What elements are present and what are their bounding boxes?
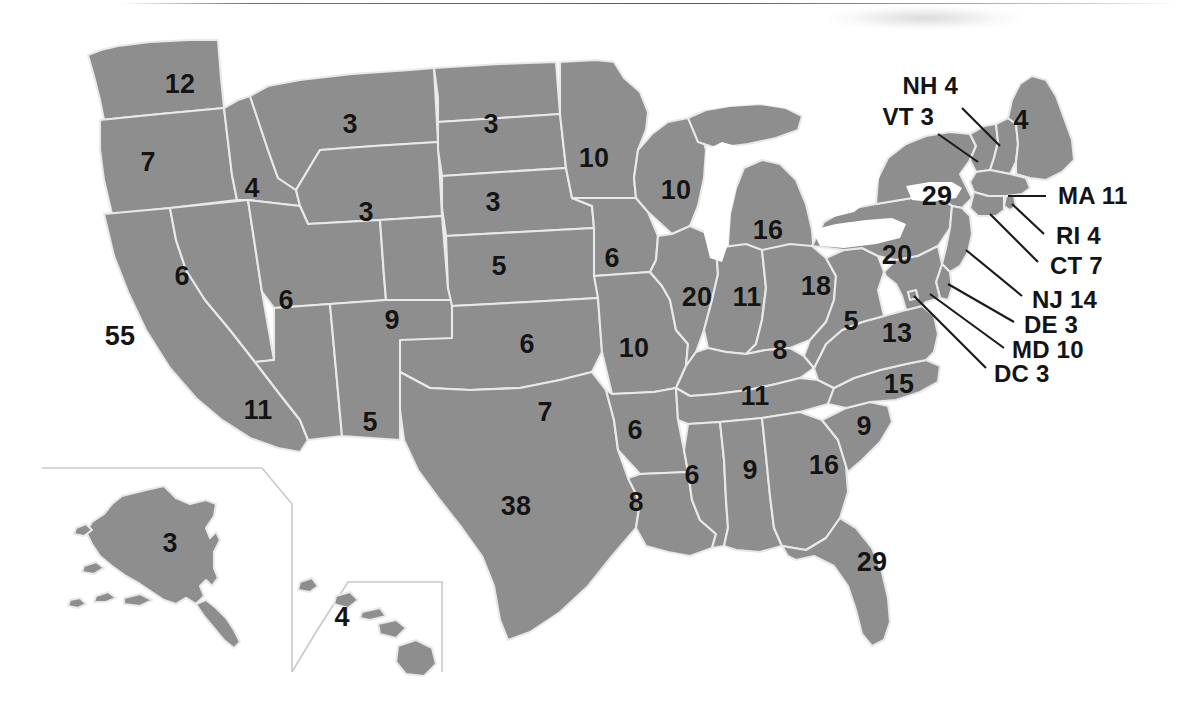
ev-label-sc: 9 (856, 413, 871, 440)
ev-label-fl: 29 (857, 549, 887, 576)
callout-label-nj: NJ 14 (1032, 288, 1097, 312)
state-shape-ak-aleutians-3 (124, 594, 152, 606)
ev-label-hi: 4 (334, 604, 349, 631)
callout-label-md: MD 10 (1012, 338, 1084, 362)
ev-label-ca: 55 (105, 323, 135, 350)
state-shape-wa (88, 40, 224, 120)
ev-label-co: 9 (384, 307, 399, 334)
callout-label-ct: CT 7 (1050, 254, 1103, 278)
ev-label-nv: 6 (174, 263, 189, 290)
state-shape-ak-island-2 (82, 562, 104, 574)
ev-label-pa: 20 (882, 242, 912, 269)
callout-label-de: DE 3 (1024, 313, 1078, 337)
state-shape-co (380, 216, 452, 300)
ev-label-or: 7 (140, 149, 155, 176)
ev-label-wa: 12 (165, 71, 195, 98)
state-shape-ks (446, 228, 598, 306)
ev-label-va: 13 (882, 320, 912, 347)
ev-label-nd: 3 (483, 111, 498, 138)
ev-label-wy: 3 (358, 199, 373, 226)
us-map-graphic (0, 0, 1177, 702)
callout-label-ma: MA 11 (1058, 184, 1127, 208)
contiguous-states-group (88, 40, 1074, 646)
ev-label-sd: 3 (485, 189, 500, 216)
state-shape-ak-aleutians-1 (68, 598, 86, 608)
ev-label-mo: 10 (619, 335, 649, 362)
ev-label-me: 4 (1013, 107, 1028, 134)
ev-label-mn: 10 (579, 145, 609, 172)
state-shape-hi-kauai (298, 578, 318, 592)
state-shape-ct (970, 192, 1004, 216)
state-shape-hi-molokai (360, 608, 386, 620)
leader-line-nj (966, 250, 1022, 296)
ev-label-ky: 8 (772, 337, 787, 364)
state-shape-or (100, 108, 237, 214)
leader-line-md (930, 294, 1004, 348)
ev-label-ak: 3 (162, 530, 177, 557)
ev-label-ut: 6 (278, 287, 293, 314)
ev-label-il: 20 (682, 284, 712, 311)
callout-label-vt: VT 3 (883, 105, 934, 129)
ev-label-tx: 38 (501, 493, 531, 520)
state-shape-ri (1004, 196, 1016, 210)
lake-huron-erie (802, 116, 880, 218)
ev-label-wi: 10 (661, 177, 691, 204)
alaska-inset-group (68, 486, 240, 648)
ev-label-nc: 15 (884, 371, 914, 398)
state-shape-hi-maui (378, 620, 406, 638)
state-shape-ak-panhandle (196, 600, 240, 648)
ev-label-tn: 11 (741, 383, 770, 410)
ev-label-ne: 5 (491, 253, 506, 280)
state-shape-ak-aleutians-2 (94, 592, 116, 602)
electoral-college-map-figure: 12 7 55 6 4 3 3 6 11 9 5 3 3 5 6 7 38 10… (0, 0, 1177, 702)
callout-label-ri: RI 4 (1056, 224, 1101, 248)
ev-label-ks: 6 (519, 331, 534, 358)
ev-label-in: 11 (733, 284, 762, 311)
ev-label-ar: 6 (627, 417, 642, 444)
ev-label-az: 11 (244, 397, 273, 424)
ev-label-oh: 18 (801, 273, 831, 300)
ev-label-wv: 5 (843, 308, 858, 335)
ev-label-la: 8 (628, 489, 643, 516)
ev-label-mt: 3 (342, 111, 357, 138)
ev-label-ia: 6 (604, 245, 619, 272)
ev-label-al: 9 (742, 457, 757, 484)
ev-label-ok: 7 (537, 399, 552, 426)
leader-line-de (948, 284, 1014, 322)
callout-label-nh: NH 4 (903, 74, 958, 98)
ev-label-id: 4 (244, 175, 259, 202)
leader-line-ri (1012, 204, 1044, 234)
state-shape-mi-upper (688, 104, 802, 148)
ev-label-ms: 6 (684, 462, 699, 489)
state-shape-ak (86, 486, 220, 604)
ev-label-nm: 5 (362, 409, 377, 436)
ev-label-mi: 16 (753, 217, 783, 244)
state-shape-hi-bigisland (396, 640, 436, 676)
ev-label-ga: 16 (809, 452, 839, 479)
state-shape-sd (438, 114, 566, 176)
ev-label-ny: 29 (922, 183, 952, 210)
callout-label-dc: DC 3 (994, 362, 1049, 386)
